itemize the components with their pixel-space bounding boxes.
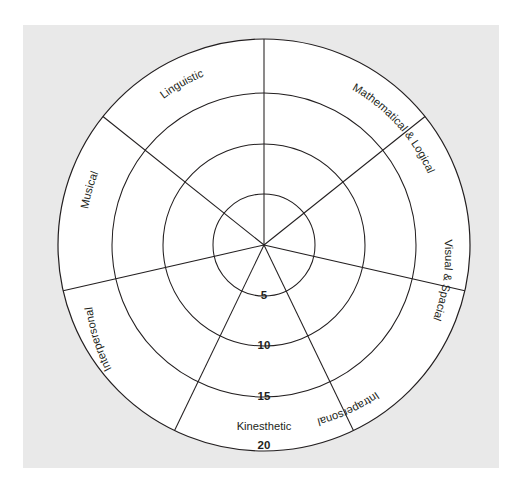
sector-label-kinesthetic: Kinesthetic (237, 420, 292, 432)
radial-tick-15: 15 (258, 390, 271, 402)
radial-tick-10: 10 (258, 339, 271, 351)
page-root: Mathematical & Logical Visual & Spacial … (0, 0, 521, 491)
multiple-intelligences-wheel-chart: Mathematical & Logical Visual & Spacial … (0, 0, 521, 491)
radial-tick-20: 20 (258, 439, 271, 451)
radial-tick-5: 5 (261, 289, 268, 301)
